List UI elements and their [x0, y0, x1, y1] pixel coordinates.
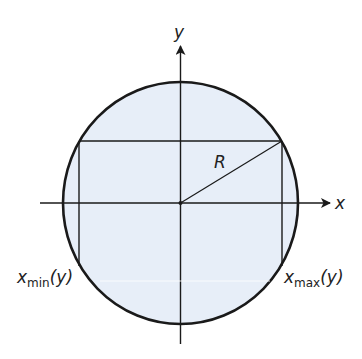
- x-min-label: xmin(y): [16, 267, 73, 290]
- radius-label: R: [214, 152, 226, 172]
- x-min-arg: (y): [50, 267, 73, 287]
- x-min-subscript: min: [27, 276, 50, 290]
- y-axis-label: y: [173, 22, 185, 42]
- x-axis-label: x: [334, 193, 346, 213]
- x-max-label: xmax(y): [283, 267, 344, 290]
- x-max-subscript: max: [294, 276, 320, 290]
- circle-bounds-diagram: y x R xmin(y) xmax(y): [0, 0, 362, 359]
- origin-point: [179, 201, 183, 205]
- x-max-arg: (y): [320, 267, 343, 287]
